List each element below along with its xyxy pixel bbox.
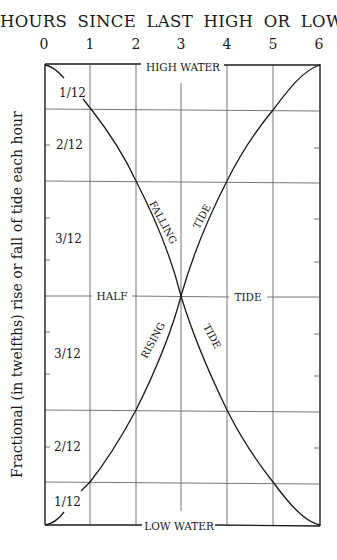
band-label-1: 1/12 xyxy=(59,86,86,100)
rising-curve-bottom-segment xyxy=(45,512,64,525)
low-water-label: LOW WATER xyxy=(144,520,215,532)
tide-curves xyxy=(45,65,320,525)
high-water-label: HIGH WATER xyxy=(146,61,221,73)
tide-mid-label: TIDE xyxy=(234,291,261,303)
band-label-6: 1/12 xyxy=(54,495,81,509)
tide-lower-label: TIDE xyxy=(201,322,223,350)
band-label-5: 2/12 xyxy=(54,440,81,454)
tide-diagram: HIGH WATER LOW WATER 1/12 2/12 3/12 3/12… xyxy=(0,0,337,560)
band-label-3: 3/12 xyxy=(55,232,82,246)
band-label-2: 2/12 xyxy=(56,138,83,152)
half-label: HALF xyxy=(97,290,128,302)
falling-curve xyxy=(83,99,320,525)
band-label-4: 3/12 xyxy=(54,347,81,361)
rising-label: RISING xyxy=(139,321,167,361)
falling-curve-top-segment xyxy=(45,65,64,78)
frame xyxy=(45,64,320,526)
rising-curve xyxy=(81,65,320,491)
horizontal-grid xyxy=(45,109,319,484)
